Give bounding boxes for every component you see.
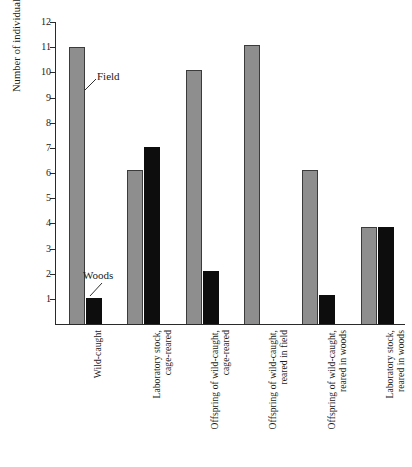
annotation-woods-label: Woods	[83, 270, 113, 281]
y-tick-label: 6	[46, 168, 51, 178]
x-axis-label: Wild-caught	[92, 330, 106, 465]
y-tick-label: 9	[46, 93, 51, 103]
y-tick-label: 7	[46, 143, 51, 153]
y-tick-label: 11	[41, 42, 51, 52]
annotation-field-label: Field	[97, 71, 120, 82]
y-tick-label: 10	[41, 67, 51, 77]
x-axis-label: Offspring of wild-caught, cage-reared	[209, 330, 223, 465]
y-tick-label: 5	[46, 193, 51, 203]
y-axis-title: Number of individuals selecting	[8, 0, 26, 108]
bar-chart: Number of individuals selecting 12345678…	[0, 0, 412, 467]
y-tick-label: 12	[41, 17, 51, 27]
plot-area: 123456789101112 Field Woods	[55, 22, 405, 325]
x-axis-labels: Wild-caughtLaboratory stock, cage-reared…	[55, 330, 405, 467]
y-tick-label: 1	[46, 294, 51, 304]
y-tick-label: 3	[46, 244, 51, 254]
y-tick-label: 4	[46, 218, 51, 228]
x-axis-label: Laboratory stock, cage-reared	[151, 330, 165, 465]
y-tick-label: 2	[46, 269, 51, 279]
y-tick-label: 8	[46, 118, 51, 128]
x-axis-label: Laboratory stock, reared in woods	[384, 330, 398, 465]
x-axis-label: Offspring of wild-caught, reared in wood…	[326, 330, 340, 465]
x-axis-label: Offspring of wild-caught, reared in fiel…	[267, 330, 281, 465]
